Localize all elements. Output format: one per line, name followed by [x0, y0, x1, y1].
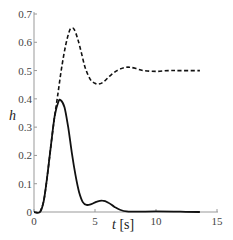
x-tick-label: 15: [212, 215, 224, 227]
series: [34, 28, 200, 213]
y-tick-label: 0.3: [18, 121, 32, 133]
x-axis-label: t [s]: [112, 217, 134, 232]
line-chart: 00.10.20.30.40.50.60.7 051015 h t [s]: [0, 0, 233, 240]
y-tick-label: 0.1: [18, 178, 32, 190]
axes: [34, 12, 218, 212]
y-tick-label: 0.2: [18, 149, 32, 161]
x-tick-label: 5: [92, 215, 98, 227]
y-tick-label: 0.7: [18, 8, 32, 20]
x-tick-label: 10: [151, 215, 163, 227]
y-tick-label: 0.4: [18, 93, 32, 105]
y-tick-label: 0.5: [18, 65, 32, 77]
series-dashed-line: [40, 28, 200, 212]
y-tick-label: 0.6: [18, 36, 32, 48]
series-solid-line: [34, 100, 200, 213]
x-axis-label-unit: [s]: [116, 217, 134, 232]
y-axis-label: h: [9, 108, 16, 123]
x-tick-label: 0: [31, 215, 37, 227]
